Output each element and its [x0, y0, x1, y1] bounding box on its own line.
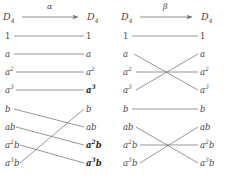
target-element-7: a3b — [200, 159, 214, 168]
target-element-5: ab — [200, 123, 211, 132]
target-element-1: a — [200, 50, 205, 59]
link-ab-a2b — [16, 127, 84, 145]
target-element-3: a3 — [86, 86, 96, 95]
target-element-0: 1 — [86, 32, 91, 41]
diagram-beta-lines — [118, 0, 230, 183]
source-element-5: ab — [123, 123, 134, 132]
target-element-3: a3 — [200, 86, 209, 95]
target-element-2: a2 — [200, 68, 209, 77]
map-label-beta: β — [163, 3, 168, 11]
target-element-5: ab — [86, 123, 97, 132]
link-a3b-b — [20, 109, 84, 163]
source-element-6: a2b — [123, 141, 137, 150]
source-element-3: a3 — [5, 86, 14, 95]
link-a2b-a3b — [20, 145, 84, 163]
domain-label-beta: D4 — [121, 12, 132, 22]
diagram-alpha: D4 D4 α 1 a a2 a3 b ab a2b a3b 1 a a2 a3… — [0, 0, 118, 183]
diagram-beta: D4 D4 β 1 a a2 a3 b ab a2b a3b 1 a a2 a3… — [118, 0, 230, 183]
domain-label-alpha: D4 — [3, 12, 14, 22]
target-element-4: b — [86, 105, 91, 114]
map-label-alpha: α — [47, 3, 52, 11]
source-element-3: a3 — [123, 86, 132, 95]
source-element-4: b — [123, 105, 128, 114]
codomain-label-beta: D4 — [201, 12, 212, 22]
source-element-6: a2b — [5, 141, 19, 150]
source-element-5: ab — [5, 123, 16, 132]
target-element-7: a3b — [86, 159, 102, 168]
source-element-2: a2 — [5, 68, 14, 77]
target-element-6: a2b — [86, 141, 102, 150]
source-element-0: 1 — [5, 32, 10, 41]
source-element-7: a3b — [123, 159, 137, 168]
source-element-2: a2 — [123, 68, 132, 77]
source-element-7: a3b — [5, 159, 19, 168]
target-element-0: 1 — [200, 32, 205, 41]
source-element-1: a — [123, 50, 128, 59]
codomain-label-alpha: D4 — [87, 12, 98, 22]
target-element-4: b — [200, 105, 205, 114]
source-element-1: a — [5, 50, 10, 59]
target-element-1: a — [86, 50, 91, 59]
target-element-2: a2 — [86, 68, 95, 77]
source-element-0: 1 — [123, 32, 128, 41]
target-element-6: a2b — [200, 141, 214, 150]
figure-root: D4 D4 α 1 a a2 a3 b ab a2b a3b 1 a a2 a3… — [0, 0, 230, 183]
diagram-alpha-lines — [0, 0, 118, 183]
source-element-4: b — [5, 105, 10, 114]
